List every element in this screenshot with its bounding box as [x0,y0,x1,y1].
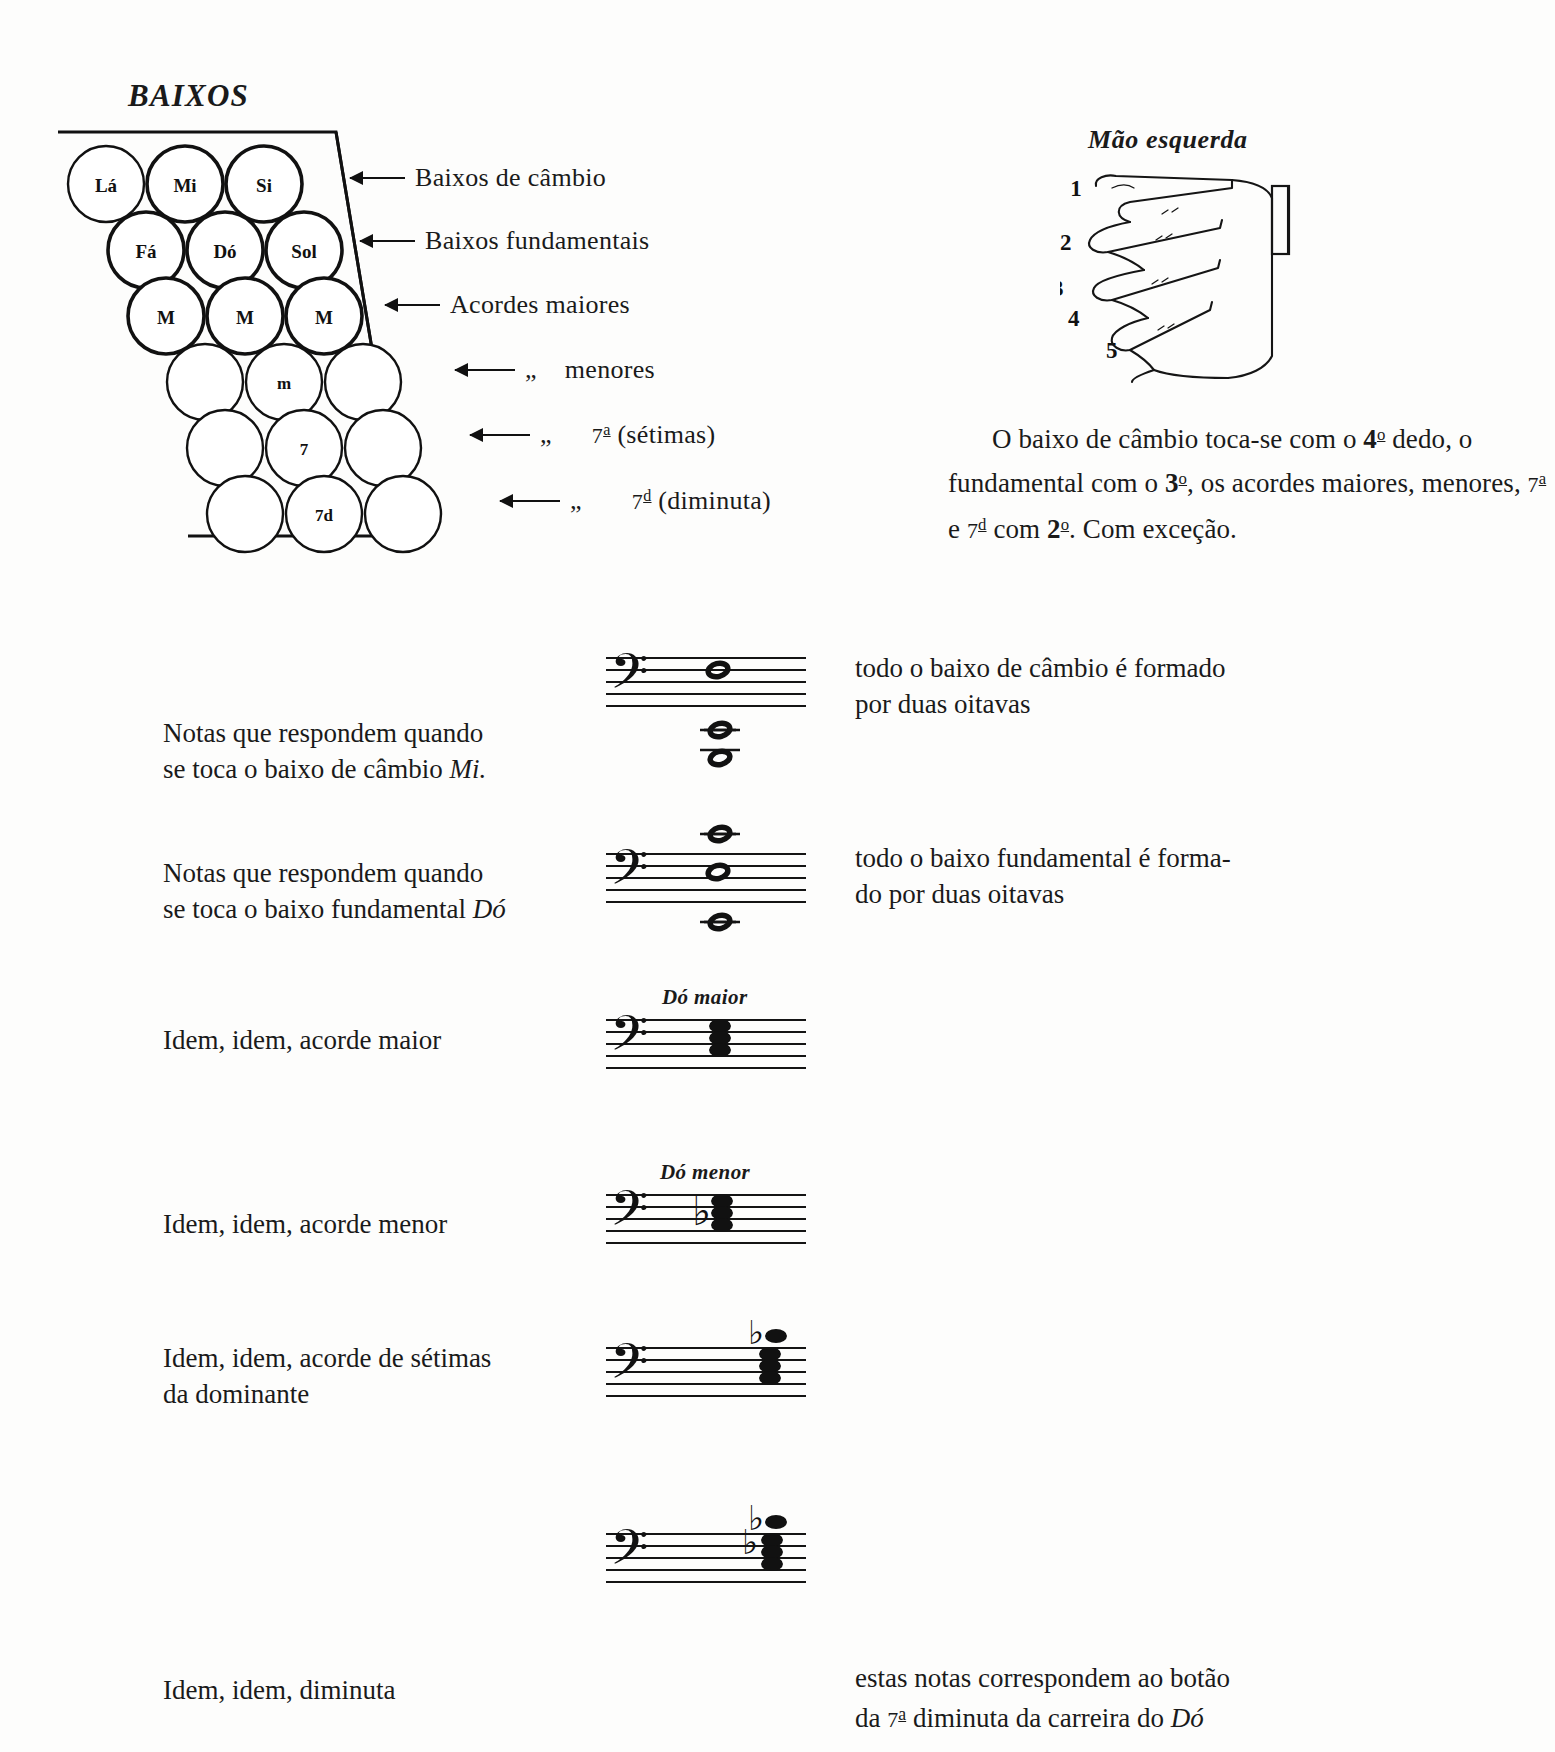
callout-menores: „ menores [455,355,655,385]
note-head [707,863,730,880]
bass-clef-icon: 𝄢 [610,1010,649,1074]
callout-label: Acordes maiores [450,290,630,320]
example-2-right-text: todo o baixo fundamental é forma- do por… [855,840,1455,912]
bass-button-label: M [236,307,254,328]
para-line-4-c: . Com exceção. [1069,514,1237,544]
note-head [765,1329,787,1343]
bass-button-label: 7d [315,506,334,525]
flat-accidental-icon: ♭ [692,1188,711,1234]
left-hand-illustration: 1 2 3 4 5 [1060,170,1320,385]
example-4-left-text: Idem, idem, acorde menor [163,1206,593,1242]
callout-ditto: „ [570,486,582,516]
chord-stack [761,1533,783,1571]
finger-number-3: 3 [1060,276,1064,301]
bass-button-dim-3[interactable] [365,476,441,552]
example-5-staff: ♭ 𝄢 [600,1320,815,1410]
note-head [704,721,736,738]
arrow-left-icon [500,500,560,502]
example-2-left-text: Notas que respondem quando se toca o bai… [163,855,593,927]
callout-diminuta: „ 7d (diminuta) [500,486,771,516]
note-head [765,1515,787,1529]
example-3-chord-title: Dó maior [662,985,747,1010]
bass-button-minor-1[interactable] [167,344,243,420]
flat-accidental-icon: ♭ [742,1522,758,1562]
example-1-left-text: Notas que respondem quando se toca o bai… [163,715,593,787]
bass-button-minor-3[interactable] [325,344,401,420]
hand-figure-title: Mão esquerda [1088,125,1248,155]
bass-clef-icon: 𝄢 [610,650,649,712]
arrow-left-icon [470,434,530,436]
finger-number-2: 2 [1060,230,1072,255]
example-5-left-text: Idem, idem, acorde de sétimas da dominan… [163,1340,593,1412]
callout-label: Baixos fundamentais [425,226,650,256]
example-2-line2-italic: Dó [473,894,506,924]
page-title-baixos: BAIXOS [128,78,249,114]
chord-stack [711,1194,733,1232]
bass-button-label: 7 [300,440,309,459]
bass-clef-icon: 𝄢 [610,1185,649,1249]
bass-button-label: Si [256,175,272,196]
example-4-chord-title: Dó menor [660,1160,750,1185]
example-2-staff: 𝄢 [600,820,815,940]
callout-maiores: Acordes maiores [385,290,630,320]
bass-row-cambio: Lá Mi Si [68,146,302,222]
chord-stack [759,1347,781,1385]
example-6-right-line2-c: diminuta da carreira do [906,1703,1171,1733]
note-head [704,913,736,930]
para-line-2-d: 3 [1165,468,1179,498]
example-1-line2-a: se toca o baixo de câmbio [163,754,449,784]
bass-button-label: Mi [173,175,196,196]
callout-label: 7d (diminuta) [632,486,771,516]
callout-label: 7a (sétimas) [592,420,716,450]
example-1-line1: Notas que respondem quando [163,715,593,751]
example-2-line1: Notas que respondem quando [163,855,593,891]
bass-button-seventh-3[interactable] [345,410,421,486]
bass-button-seventh-1[interactable] [187,410,263,486]
bass-button-label: Fá [135,241,157,262]
callout-label-num: 7 [592,423,603,448]
right-explanatory-paragraph: O baixo de câmbio toca-se com o 4o dedo,… [948,415,1548,551]
bass-button-label: Sol [291,241,316,262]
note-head [704,825,736,842]
example-6-right-line2-sup: a [898,1704,906,1724]
bass-clef-icon: 𝄢 [610,838,649,908]
bass-row-fundamentais: Fá Dó Sol [108,212,342,288]
example-6-right-line2: da 7a diminuta da carreira do Dó [855,1696,1455,1738]
para-line-3-sup2: d [978,515,986,534]
callout-label-sup: d [643,487,651,504]
finger-number-1: 1 [1070,176,1082,201]
example-3-line1: Idem, idem, acorde maior [163,1022,593,1058]
example-4-staff: 𝄢 ♭ [600,1185,815,1265]
scanned-page: BAIXOS Lá Mi Si Fá Dó Sol [0,0,1555,1752]
arrow-left-icon [360,240,415,242]
bass-clef-icon: 𝄢 [610,1518,649,1588]
bass-button-label: M [157,307,175,328]
callout-setimas: „ 7a (sétimas) [470,420,715,450]
para-line-2-e: , [1187,468,1194,498]
example-3-staff: 𝄢 [600,1010,815,1090]
bass-row-setimas: 7 [187,410,421,486]
para-line-2-a: o [1343,424,1363,454]
example-5-line1: Idem, idem, acorde de sétimas [163,1340,593,1376]
example-1-staff: 𝄢 [600,650,815,785]
example-1-line2: se toca o baixo de câmbio Mi. [163,751,593,787]
bass-button-label: Lá [95,175,118,196]
chord-stack [709,1019,731,1057]
example-6-line1: Idem, idem, diminuta [163,1672,593,1708]
example-2-line2: se toca o baixo fundamental Dó [163,891,593,927]
callout-ditto: „ [540,420,552,450]
callout-cambio: Baixos de câmbio [350,163,606,193]
example-6-staff: ♭ 𝄢 ♭ [600,1500,815,1620]
example-1-right-text: todo o baixo de câmbio é formado por dua… [855,650,1455,722]
bass-button-dim-1[interactable] [207,476,283,552]
bass-row-diminuta: 7d [207,476,441,552]
bass-row-maiores: M M M [128,278,362,354]
para-line-1: O baixo de câmbio toca-se com [992,424,1336,454]
bass-button-label: m [277,374,291,393]
para-line-2-b: 4 [1363,424,1377,454]
para-line-3-b: 7 [1528,472,1539,497]
para-line-3-sup: a [1539,469,1547,488]
callout-label-post: (diminuta) [652,486,772,515]
example-2-right-line2: do por duas oitavas [855,876,1455,912]
note-head [709,749,732,766]
